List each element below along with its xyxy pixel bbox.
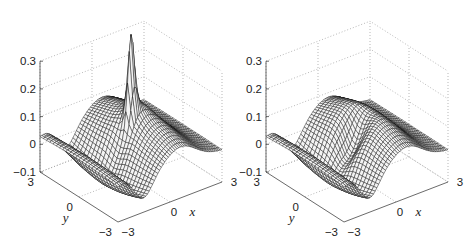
z-tick-label: 0.2 — [246, 83, 262, 95]
z-tick-label: 0.2 — [20, 83, 36, 95]
surface-mesh — [266, 96, 448, 198]
x-tick-label: 3 — [231, 176, 237, 188]
x-axis-label: x — [415, 204, 422, 219]
y-tick-label: −3 — [99, 226, 112, 238]
z-tick-label: 0.3 — [20, 55, 36, 67]
x-tick-label: −3 — [121, 226, 134, 238]
x-tick-label: 0 — [171, 206, 177, 218]
z-tick-label: 0.1 — [246, 111, 262, 123]
surface-mesh — [40, 35, 222, 199]
x-tick-label: 0 — [397, 206, 403, 218]
surface-plot-right: 0.30.20.10−0.130−3−303yx — [239, 21, 463, 238]
y-axis-label: y — [61, 210, 69, 225]
y-tick-label: 3 — [254, 176, 260, 188]
y-tick-label: −3 — [325, 226, 338, 238]
x-tick-label: −3 — [347, 226, 360, 238]
z-tick-label: 0.3 — [246, 55, 262, 67]
y-tick-label: 3 — [28, 176, 34, 188]
y-axis-label: y — [287, 210, 295, 225]
z-tick-label: 0.1 — [20, 111, 36, 123]
surface-plot-left: 0.30.20.10−0.130−3−303yx — [13, 21, 237, 238]
z-tick-label: 0 — [256, 138, 262, 150]
x-tick-label: 3 — [457, 176, 463, 188]
x-axis-label: x — [189, 204, 196, 219]
figure: 0.30.20.10−0.130−3−303yx 0.30.20.10−0.13… — [0, 0, 471, 252]
z-tick-label: 0 — [30, 138, 36, 150]
